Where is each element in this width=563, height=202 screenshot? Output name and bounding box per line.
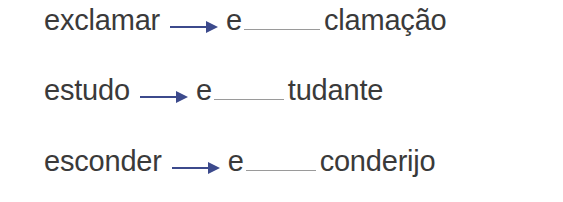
- exercise-row-3: esconder e conderijo: [44, 145, 436, 185]
- prefix: e: [228, 145, 244, 178]
- fill-in-blank[interactable]: [244, 28, 320, 30]
- arrow-right-icon: [140, 91, 188, 103]
- suffix: tudante: [288, 74, 383, 107]
- arrow-right-icon: [172, 162, 220, 174]
- exercise-row-2: estudo e tudante: [44, 74, 383, 114]
- source-word: esconder: [44, 145, 162, 178]
- suffix: conderijo: [320, 145, 436, 178]
- fill-in-blank[interactable]: [246, 169, 316, 171]
- prefix: e: [226, 4, 242, 37]
- source-word: exclamar: [44, 4, 160, 37]
- exercise-row-1: exclamar e clamação: [44, 4, 447, 44]
- suffix: clamação: [324, 4, 447, 37]
- source-word: estudo: [44, 74, 130, 107]
- fill-in-blank[interactable]: [214, 98, 284, 100]
- prefix: e: [196, 74, 212, 107]
- arrow-right-icon: [170, 21, 218, 33]
